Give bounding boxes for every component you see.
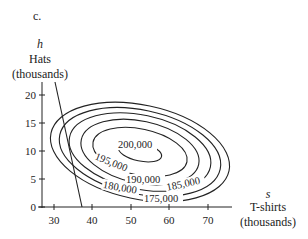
- contour-175000: [41, 87, 239, 217]
- x-tick-label: 30: [49, 214, 61, 226]
- x-axis-var: s: [266, 187, 271, 201]
- x-tick-label: 50: [126, 214, 138, 226]
- y-axis-var: h: [37, 37, 43, 51]
- contour-180000: [51, 94, 229, 210]
- x-tick-label: 40: [87, 214, 99, 226]
- y-axis-unit: (thousands): [12, 67, 68, 81]
- y-axis-name: Hats: [29, 52, 51, 66]
- x-axis-unit: (thousands): [240, 215, 296, 229]
- y-tick-label: 20: [25, 89, 37, 101]
- x-axis-name: T-shirts: [250, 200, 287, 214]
- contour-lines: [41, 87, 239, 217]
- y-tick-label: 0: [31, 201, 37, 213]
- y-tick-label: 10: [25, 145, 37, 157]
- y-tick-label: 5: [31, 173, 37, 185]
- contour-label-195000: 195,000: [93, 151, 129, 174]
- contour-label-175000: 175,000: [144, 193, 178, 204]
- contour-label-185000: 185,000: [165, 175, 201, 193]
- contour-chart: c. h Hats (thousands) s T-shirts (thousa…: [0, 0, 308, 239]
- x-tick-label: 70: [203, 214, 215, 226]
- x-tick-label: 60: [164, 214, 176, 226]
- part-label: c.: [33, 9, 41, 23]
- contour-label-200000: 200,000: [118, 139, 152, 150]
- y-tick-label: 15: [25, 117, 37, 129]
- constraint-line: [55, 82, 82, 207]
